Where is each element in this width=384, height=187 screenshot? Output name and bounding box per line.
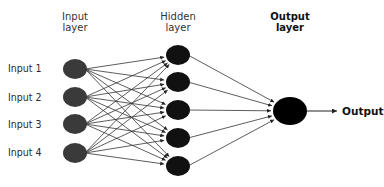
hidden-node-1 bbox=[166, 45, 190, 65]
svg-text:layer: layer bbox=[62, 22, 88, 33]
input-labels: Input 1 Input 2 Input 3 Input 4 bbox=[8, 62, 41, 158]
input-node-1 bbox=[63, 59, 87, 79]
input-node-3 bbox=[63, 114, 87, 134]
svg-text:Input: Input bbox=[62, 11, 88, 22]
header-output-layer: Output layer bbox=[270, 11, 310, 33]
connection-edge bbox=[85, 124, 164, 136]
svg-text:Hidden: Hidden bbox=[160, 11, 195, 22]
svg-text:layer: layer bbox=[165, 22, 191, 33]
connection-edge bbox=[188, 110, 271, 111]
hidden-node-4 bbox=[166, 128, 190, 148]
input-label-3: Input 3 bbox=[8, 118, 41, 130]
connection-edge bbox=[188, 116, 272, 138]
input-label-1: Input 1 bbox=[8, 62, 41, 74]
header-hidden-layer: Hidden layer bbox=[160, 11, 195, 33]
connection-edge bbox=[188, 55, 274, 102]
neural-network-diagram: Input layer Hidden layer Output layer In… bbox=[0, 0, 384, 187]
connection-edge bbox=[85, 57, 164, 69]
input-label-4: Input 4 bbox=[8, 146, 41, 158]
input-node-2 bbox=[63, 87, 87, 107]
header-input-layer: Input layer bbox=[62, 11, 88, 33]
input-node-4 bbox=[63, 143, 87, 163]
output-node-1 bbox=[273, 97, 307, 125]
svg-text:layer: layer bbox=[276, 22, 304, 33]
hidden-node-3 bbox=[166, 100, 190, 120]
output-label: Output bbox=[342, 105, 383, 117]
svg-text:Output: Output bbox=[270, 11, 310, 22]
input-label-2: Input 2 bbox=[8, 91, 41, 103]
hidden-node-2 bbox=[166, 72, 190, 92]
hidden-node-5 bbox=[166, 156, 190, 176]
